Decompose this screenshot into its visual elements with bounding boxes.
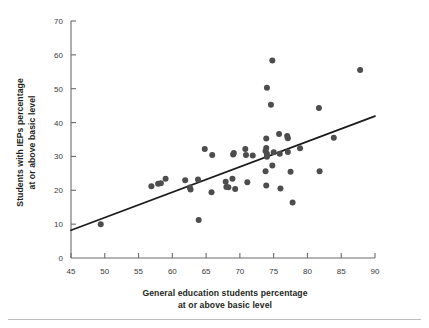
scatter-point: [263, 168, 269, 174]
tick-labels: 01020304050607045505560657075808590: [54, 17, 380, 276]
x-tick-label: 65: [202, 267, 211, 276]
scatter-point: [263, 135, 269, 141]
scatter-point: [195, 176, 201, 182]
y-tick-label: 70: [54, 17, 63, 26]
axes: [71, 21, 375, 258]
scatter-point: [317, 168, 323, 174]
scatter-point: [269, 163, 275, 169]
scatter-point: [290, 199, 296, 205]
x-tick-label: 70: [235, 267, 244, 276]
x-tick-label: 50: [100, 267, 109, 276]
scatter-point: [264, 85, 270, 91]
scatter-point: [244, 179, 250, 185]
scatter-point: [285, 135, 291, 141]
y-tick-label: 40: [54, 119, 63, 128]
bottom-divider: [8, 319, 421, 320]
x-tick-label: 60: [168, 267, 177, 276]
scatter-point: [277, 186, 283, 192]
scatter-point: [242, 146, 248, 152]
scatter-point: [188, 187, 194, 193]
y-axis-title-line2: at or above basic level: [26, 52, 38, 232]
scatter-point: [196, 217, 202, 223]
scatter-point: [263, 145, 269, 151]
y-tick-label: 0: [59, 254, 64, 263]
scatter-point: [331, 135, 337, 141]
scatter-point: [223, 179, 229, 185]
scatter-point: [277, 151, 283, 157]
scatter-point: [209, 189, 215, 195]
y-axis-title: Students with IEPs percentage at or abov…: [14, 52, 39, 232]
x-tick-label: 85: [337, 267, 346, 276]
x-tick-label: 45: [67, 267, 76, 276]
x-axis-title-line2: at or above basic level: [60, 299, 390, 311]
trendline: [71, 116, 375, 230]
scatter-plot-figure: 01020304050607045505560657075808590 Stud…: [0, 0, 429, 328]
data-points: [98, 58, 363, 228]
scatter-point: [243, 152, 249, 158]
scatter-point: [182, 177, 188, 183]
scatter-point: [276, 131, 282, 137]
scatter-point: [202, 146, 208, 152]
y-tick-label: 20: [54, 186, 63, 195]
y-tick-label: 50: [54, 85, 63, 94]
scatter-point: [288, 169, 294, 175]
scatter-point: [225, 184, 231, 190]
x-tick-label: 90: [371, 267, 380, 276]
y-tick-label: 30: [54, 152, 63, 161]
scatter-point: [316, 105, 322, 111]
scatter-point: [163, 176, 169, 182]
scatter-point: [357, 67, 363, 73]
x-tick-label: 80: [303, 267, 312, 276]
scatter-point: [232, 186, 238, 192]
scatter-point: [209, 152, 215, 158]
y-tick-label: 60: [54, 51, 63, 60]
x-tick-label: 75: [269, 267, 278, 276]
scatter-point: [263, 183, 269, 189]
scatter-point: [98, 221, 104, 227]
x-tick-label: 55: [134, 267, 143, 276]
y-tick-label: 10: [54, 220, 63, 229]
scatter-point: [268, 102, 274, 108]
plot-canvas: 01020304050607045505560657075808590: [0, 0, 429, 328]
scatter-point: [269, 58, 275, 64]
scatter-point: [297, 145, 303, 151]
trend-line: [71, 116, 375, 230]
scatter-point: [271, 149, 277, 155]
scatter-point: [285, 149, 291, 155]
scatter-point: [231, 150, 237, 156]
x-axis-title-line1: General education students percentage: [60, 287, 390, 299]
scatter-point: [264, 154, 270, 160]
scatter-point: [158, 180, 164, 186]
scatter-point: [229, 176, 235, 182]
y-axis-title-line1: Students with IEPs percentage: [14, 52, 26, 232]
x-axis-title: General education students percentage at…: [60, 287, 390, 312]
scatter-point: [250, 152, 256, 158]
scatter-point: [148, 183, 154, 189]
